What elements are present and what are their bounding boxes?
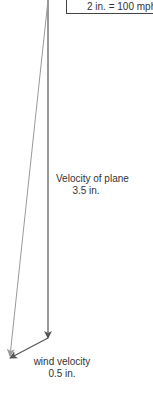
wind-velocity-title: wind velocity [33, 356, 91, 368]
wind-velocity-label: wind velocity 0.5 in. [33, 356, 91, 380]
plane-velocity-length: 3.5 in. [56, 185, 116, 197]
wind-velocity-vector [10, 338, 48, 358]
wind-velocity-length: 0.5 in. [33, 368, 91, 380]
plane-velocity-title: Velocity of plane [56, 173, 116, 185]
plane-velocity-label: Velocity of plane 3.5 in. [56, 173, 116, 197]
resultant-vector [10, 0, 48, 356]
vector-diagram [0, 0, 153, 406]
